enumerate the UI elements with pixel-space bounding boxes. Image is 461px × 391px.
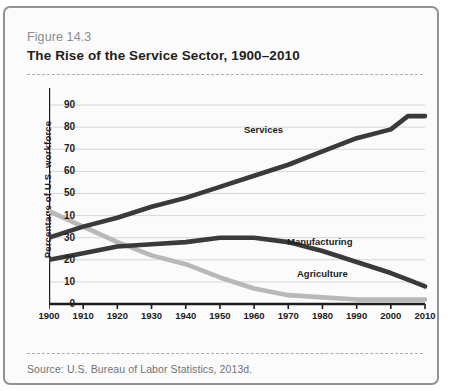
y-tick-label: 80	[49, 121, 75, 132]
source-note: Source: U.S. Bureau of Labor Statistics,…	[27, 363, 252, 375]
series-line-services	[49, 116, 425, 238]
series-label-services: Services	[244, 124, 283, 135]
y-tick-label: 30	[49, 232, 75, 243]
divider-bottom	[27, 353, 423, 354]
series-line-agriculture	[49, 211, 425, 299]
y-tick-label: 90	[49, 99, 75, 110]
y-tick-label: 0	[49, 298, 75, 309]
series-label-manufacturing: Manufacturing	[287, 236, 352, 247]
y-tick-label: 10	[49, 210, 75, 221]
y-tick-label: 60	[49, 165, 75, 176]
chart-canvas	[49, 88, 429, 340]
figure-title: The Rise of the Service Sector, 1900–201…	[27, 48, 300, 63]
chart-plot-area: Percentage of U.S. workforce Services Ma…	[19, 88, 429, 340]
figure-number: Figure 14.3	[27, 30, 91, 44]
y-tick-label: 70	[49, 143, 75, 154]
y-tick-label: 10	[49, 276, 75, 287]
figure-frame: Figure 14.3 The Rise of the Service Sect…	[3, 6, 439, 385]
x-tick-label: 2010	[405, 310, 445, 321]
y-tick-label: 50	[49, 187, 75, 198]
divider-top	[27, 74, 423, 75]
line-chart-svg	[49, 88, 429, 340]
series-label-agriculture: Agriculture	[297, 268, 348, 279]
y-tick-label: 20	[49, 254, 75, 265]
series-line-manufacturing	[49, 238, 425, 287]
